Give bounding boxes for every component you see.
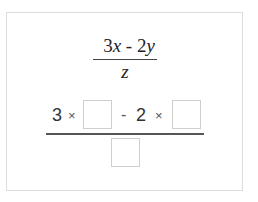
- coef-3: 3: [103, 35, 113, 56]
- sub-coef-3: 3: [52, 105, 62, 126]
- expression-denominator: z: [0, 61, 250, 83]
- coef-2: 2: [137, 35, 147, 56]
- sub-coef-2: 2: [136, 105, 146, 126]
- times-sign-1: ×: [68, 108, 76, 123]
- y-value-input[interactable]: [172, 100, 201, 129]
- fraction-bar: [93, 59, 157, 60]
- substitution-fraction-bar: [46, 133, 204, 135]
- x-value-input[interactable]: [83, 100, 112, 129]
- expression-numerator: 3x - 2y: [0, 35, 258, 57]
- var-y: y: [146, 35, 154, 56]
- z-value-input[interactable]: [111, 138, 140, 167]
- times-sign-2: ×: [155, 108, 163, 123]
- var-x: x: [113, 35, 121, 56]
- minus-operator: -: [121, 35, 137, 56]
- minus-sign: -: [121, 106, 126, 124]
